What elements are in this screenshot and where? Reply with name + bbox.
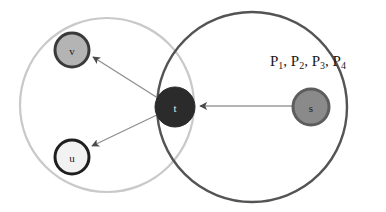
node-t[interactable]: t [155, 87, 195, 127]
path-set-label: P1, P2, P3, P4 [270, 53, 346, 71]
path-label-p3-base: , P [304, 53, 320, 69]
diagram-canvas: v u t s P1, P2, P3, P4 [0, 0, 386, 212]
node-t-label: t [173, 102, 176, 114]
node-v[interactable]: v [55, 33, 89, 67]
path-label-p2-base: , P [283, 53, 299, 69]
edge-t-to-v [93, 57, 161, 100]
diagram-svg: v u t s P1, P2, P3, P4 [0, 0, 386, 212]
path-label-p4-base: , P [325, 53, 341, 69]
node-v-label: v [69, 45, 75, 57]
node-u[interactable]: u [55, 140, 89, 174]
path-label-p1-base: P [270, 53, 278, 69]
path-label-p4-sub: 4 [341, 60, 346, 71]
edge-t-to-u [92, 113, 161, 146]
node-s[interactable]: s [293, 89, 329, 125]
node-s-label: s [309, 102, 313, 114]
node-u-label: u [69, 152, 75, 164]
